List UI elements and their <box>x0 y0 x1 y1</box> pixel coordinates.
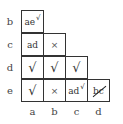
col-label-d: d <box>87 104 110 118</box>
cross-icon: × <box>51 40 59 50</box>
check-icon: √ <box>50 60 58 75</box>
col-label-b: b <box>43 104 66 118</box>
row-label-b: b <box>4 10 16 33</box>
pair-text: ad <box>27 40 38 50</box>
cell-e-b: × <box>43 79 66 102</box>
col-label-a: a <box>21 104 44 118</box>
cell-b-a: ae√ <box>21 10 44 33</box>
row-label-e: e <box>4 79 16 102</box>
row-label-c: c <box>4 33 16 56</box>
cell-c-b: × <box>43 33 66 56</box>
cell-e-c: ad√ <box>65 79 88 102</box>
pair-text: ae <box>24 17 35 27</box>
row-label-d: d <box>4 56 16 79</box>
pair-text: ad <box>68 86 79 96</box>
check-icon: √ <box>28 83 36 98</box>
col-label-c: c <box>65 104 88 118</box>
cell-c-a: ad <box>21 33 44 56</box>
cell-d-a: √ <box>21 56 44 79</box>
cross-icon: × <box>51 86 59 96</box>
cell-e-a: √ <box>21 79 44 102</box>
check-icon: √ <box>36 14 40 22</box>
check-icon: √ <box>72 60 80 75</box>
cell-e-d: bc <box>87 79 110 102</box>
check-icon: √ <box>80 83 84 91</box>
check-icon: √ <box>28 60 36 75</box>
cell-d-b: √ <box>43 56 66 79</box>
cell-d-c: √ <box>65 56 88 79</box>
